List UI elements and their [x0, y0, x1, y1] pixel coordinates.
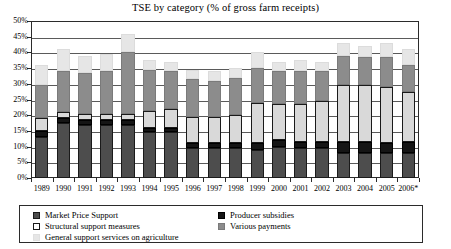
x-tick-mark	[268, 178, 269, 182]
bar-segment	[208, 148, 221, 178]
y-axis-tick-label: 25%	[2, 96, 28, 104]
legend-item[interactable]: Market Price Support	[33, 211, 118, 220]
bar-segment	[294, 148, 307, 178]
bars-layer	[31, 21, 419, 178]
bar-segment	[100, 125, 113, 178]
bar-segment	[294, 142, 307, 148]
legend-item[interactable]: General support services on agriculture	[33, 233, 179, 242]
bar-segment	[164, 128, 177, 133]
bar-segment	[100, 114, 113, 120]
chart-title: TSE by category (% of gross farm receipt…	[0, 2, 451, 13]
y-axis-tick-label: 35%	[2, 64, 28, 72]
bar-group	[143, 21, 156, 178]
bar-group	[57, 21, 70, 178]
bar-segment	[294, 104, 307, 142]
bar-segment	[315, 71, 328, 101]
y-axis-tick-label: 30%	[2, 80, 28, 88]
bar-segment	[78, 56, 91, 73]
bar-segment	[35, 118, 48, 131]
legend-label: Structural support measures	[45, 222, 140, 231]
bar-segment	[121, 52, 134, 113]
x-axis-tick-label: 1990	[53, 184, 75, 193]
bar-segment	[208, 143, 221, 148]
bar-group	[251, 21, 264, 178]
bar-group	[78, 21, 91, 178]
bar-segment	[337, 153, 350, 178]
bar-segment	[229, 148, 242, 178]
bar-group	[229, 21, 242, 178]
x-tick-mark	[182, 178, 183, 182]
bar-segment	[121, 125, 134, 178]
x-tick-mark	[117, 178, 118, 182]
bar-segment	[294, 60, 307, 71]
x-axis-tick-label: 2001	[290, 184, 312, 193]
bar-segment	[208, 117, 221, 144]
y-axis-tick-label: 10%	[2, 143, 28, 151]
bar-segment	[35, 131, 48, 137]
bar-group	[100, 21, 113, 178]
legend-item[interactable]: Producer subsidies	[218, 211, 294, 220]
bar-segment	[337, 142, 350, 153]
legend-swatch-icon	[218, 223, 225, 230]
bar-segment	[294, 71, 307, 104]
x-tick-mark	[139, 178, 140, 182]
bar-group	[380, 21, 393, 178]
legend-swatch-icon	[33, 212, 40, 219]
legend-item[interactable]: Structural support measures	[33, 222, 140, 231]
y-axis-tick-label: 15%	[2, 127, 28, 135]
bar-segment	[164, 109, 177, 128]
bar-segment	[337, 56, 350, 86]
bar-segment	[143, 60, 156, 69]
x-tick-mark	[290, 178, 291, 182]
legend-label: General support services on agriculture	[45, 233, 179, 242]
bar-segment	[315, 101, 328, 142]
bar-segment	[143, 70, 156, 111]
legend-item[interactable]: Various payments	[218, 222, 291, 231]
bar-segment	[100, 120, 113, 125]
bar-segment	[358, 46, 371, 57]
bar-group	[402, 21, 415, 178]
x-tick-mark	[96, 178, 97, 182]
legend-label: Producer subsidies	[230, 211, 294, 220]
x-tick-mark	[31, 178, 32, 182]
bar-segment	[358, 153, 371, 178]
bar-segment	[315, 148, 328, 178]
bar-segment	[380, 143, 393, 152]
legend-swatch-icon	[33, 223, 40, 230]
bar-segment	[121, 120, 134, 125]
x-axis-tick-label: 1993	[117, 184, 139, 193]
bar-segment	[380, 87, 393, 144]
bar-group	[337, 21, 350, 178]
legend-label: Various payments	[230, 222, 291, 231]
bar-group	[186, 21, 199, 178]
bar-segment	[358, 57, 371, 85]
bar-segment	[57, 112, 70, 118]
y-axis-tick-label: 0%	[2, 174, 28, 182]
bar-segment	[337, 43, 350, 56]
x-axis-tick-label: 1995	[160, 184, 182, 193]
bar-segment	[229, 68, 242, 77]
bar-segment	[186, 117, 199, 144]
x-tick-mark	[333, 178, 334, 182]
x-axis-tick-label: 2004	[354, 184, 376, 193]
bar-segment	[358, 142, 371, 153]
x-tick-mark	[203, 178, 204, 182]
y-axis-tick-label: 40%	[2, 48, 28, 56]
x-axis-tick-label: 2003	[333, 184, 355, 193]
chart-container: TSE by category (% of gross farm receipt…	[0, 0, 451, 249]
x-tick-mark	[247, 178, 248, 182]
bar-segment	[78, 120, 91, 125]
bar-segment	[121, 114, 134, 120]
bar-segment	[315, 142, 328, 148]
bar-segment	[380, 43, 393, 57]
x-axis-tick-label: 1989	[31, 184, 53, 193]
bar-segment	[315, 62, 328, 71]
x-tick-mark	[419, 178, 420, 182]
bar-group	[358, 21, 371, 178]
bar-segment	[143, 128, 156, 133]
y-axis-tick-label: 20%	[2, 111, 28, 119]
x-axis-tick-label: 1991	[74, 184, 96, 193]
bar-segment	[251, 52, 264, 68]
x-axis-tick-label: 1992	[96, 184, 118, 193]
bar-segment	[78, 114, 91, 120]
